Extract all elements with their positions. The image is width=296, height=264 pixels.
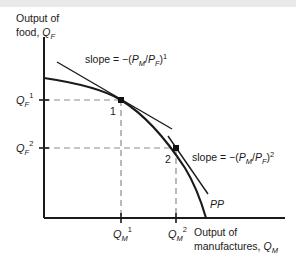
x-axis-title-sub: M [272,246,279,255]
x-axis-title-line1: Output of [194,226,237,238]
slope-label-1: slope = −(PM/PF)1 [85,52,167,68]
dashed-guides [44,100,176,216]
slope1-den-var: P [148,53,155,65]
y-tick-1-sup: 1 [29,91,33,100]
y-tick-label-2: QF2 [16,139,33,157]
x-tick-label-2: QM2 [168,225,187,243]
page-top-band [0,0,296,7]
slope-label-2: slope = −(PM/PF)2 [192,150,274,166]
x-tick-1-sup: 1 [128,225,132,234]
axis-lines [44,37,285,218]
y-tick-1-sub: F [25,100,30,109]
point-marker-1 [118,97,124,103]
slope1-prefix: slope = −( [85,53,132,65]
x-axis-title-line2: manufactures,QM [194,240,279,255]
diagram-canvas: 1 2 PP Output of food,QF Output of manuf… [0,0,296,264]
slope2-sup: 2 [270,150,274,159]
slope1-sup: 1 [163,52,167,61]
tick-marks [39,100,176,223]
x-axis-title-text: manufactures, [194,240,261,252]
ppf-diagram: 1 2 PP Output of food,QF Output of manuf… [0,0,296,264]
y-axis-title-line1: Output of [16,12,59,24]
slope2-num-var: P [239,151,246,163]
tangent-line-point-1 [57,62,172,129]
slope2-prefix: slope = −( [192,151,239,163]
x-tick-1-sub: M [122,234,129,243]
point-marker-2 [173,145,179,151]
y-tick-label-1: QF1 [16,91,33,109]
pp-curve-label: PP [210,198,224,210]
y-axis-title-sub: F [51,32,56,41]
y-axis-title-var: Q [42,26,50,38]
slope1-num-var: P [132,53,139,65]
y-axis-title-text: food, [16,26,39,38]
y-tick-2-sub: F [25,148,30,157]
y-axis-title-line2: food,QF [16,26,56,41]
x-axis-title-var: Q [264,240,272,252]
point-label-2: 2 [165,153,171,165]
tangent-line-point-2 [168,136,208,194]
point-label-1: 1 [110,105,116,117]
x-tick-label-1: QM1 [113,225,132,243]
x-tick-2-sub: M [177,234,184,243]
y-tick-2-sup: 2 [29,139,33,148]
x-tick-2-sup: 2 [183,225,187,234]
slope2-den-var: P [255,151,262,163]
